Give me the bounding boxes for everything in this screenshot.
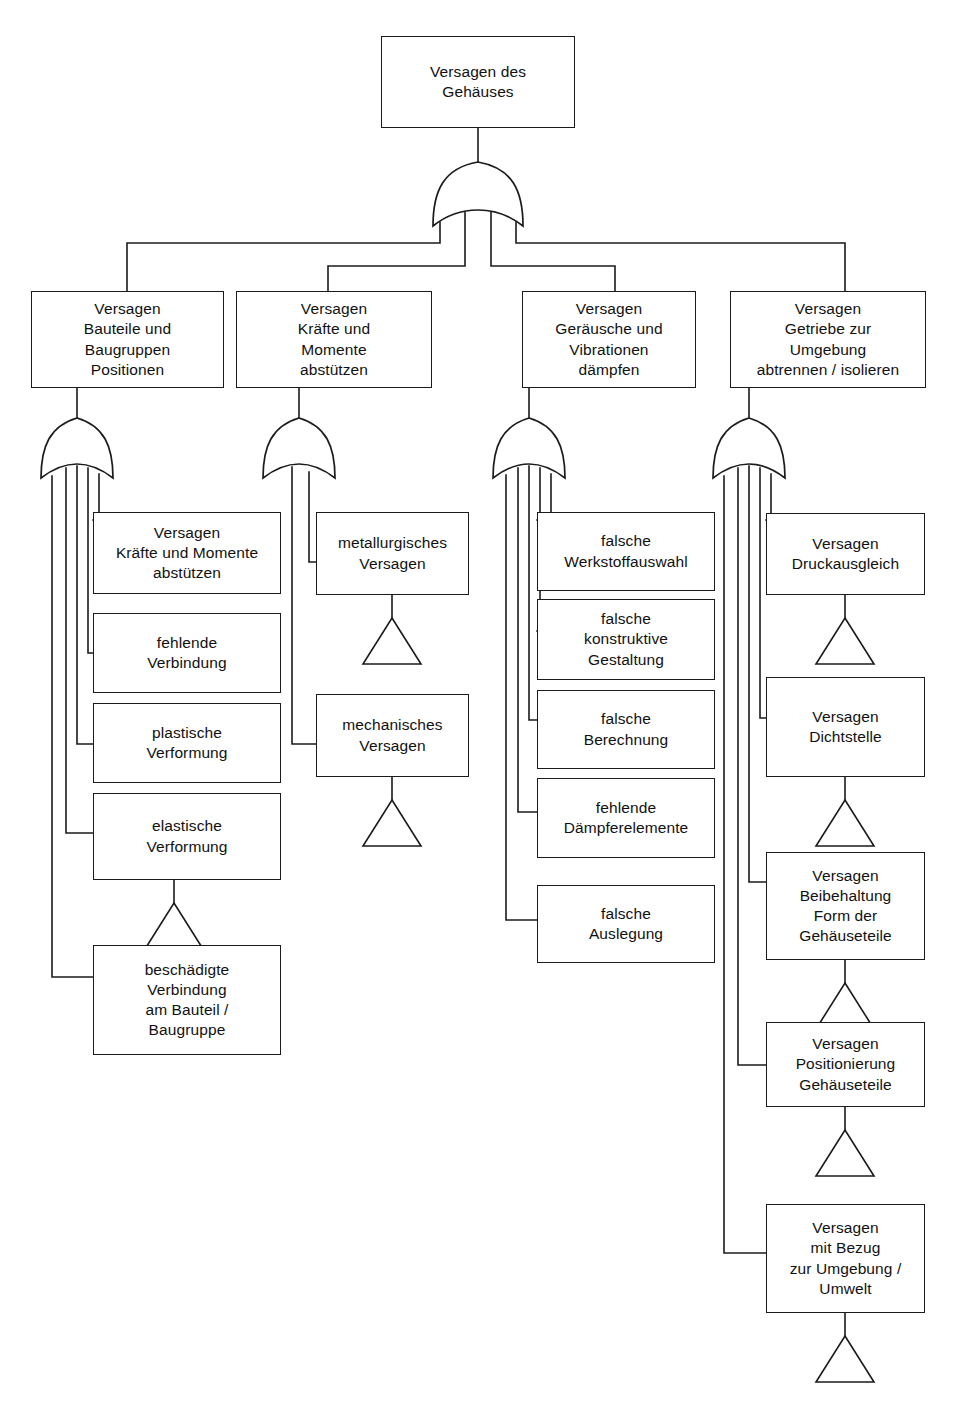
fault-tree-diagram: Versagen des Gehäuses Versagen Bauteile … — [0, 0, 958, 1420]
col4-item-dichtstelle[interactable]: Versagen Dichtstelle — [766, 677, 925, 777]
wire-c4-leg-4 — [738, 468, 766, 1065]
wire-c3-leg-4 — [518, 468, 537, 812]
top-event-node[interactable]: Versagen des Gehäuses — [381, 36, 575, 128]
transfer-triangle-c4-5 — [816, 1336, 874, 1382]
col1-item-beschaedigte-verbindung[interactable]: beschädigte Verbindung am Bauteil / Baug… — [93, 945, 281, 1055]
col4-item-beibehaltung-form[interactable]: Versagen Beibehaltung Form der Gehäusete… — [766, 852, 925, 960]
wire-c2-leg-2 — [292, 467, 316, 744]
wire-c1-leg-4 — [66, 468, 93, 833]
transfer-triangle-c2-2 — [363, 800, 421, 846]
or-gate-c2 — [263, 418, 335, 478]
or-gate-c1 — [41, 418, 113, 478]
level2-node-geraeusche[interactable]: Versagen Geräusche und Vibrationen dämpf… — [522, 291, 696, 388]
or-gate-c4 — [713, 418, 785, 478]
col3-item-auslegung[interactable]: falsche Auslegung — [537, 885, 715, 963]
col3-item-werkstoffauswahl[interactable]: falsche Werkstoffauswahl — [537, 512, 715, 591]
wire-top-leg-3 — [491, 212, 615, 291]
level2-node-bauteile[interactable]: Versagen Bauteile und Baugruppen Positio… — [31, 291, 224, 388]
wire-c1-leg-3 — [77, 466, 93, 744]
col4-item-positionierung[interactable]: Versagen Positionierung Gehäuseteile — [766, 1022, 925, 1107]
wire-c4-leg-5 — [724, 476, 766, 1253]
transfer-triangle-c4-4 — [816, 1130, 874, 1176]
col3-item-berechnung[interactable]: falsche Berechnung — [537, 690, 715, 769]
level2-node-kraefte[interactable]: Versagen Kräfte und Momente abstützen — [236, 291, 432, 388]
transfer-triangle-c4-2 — [816, 800, 874, 846]
col3-item-daempferelemente[interactable]: fehlende Dämpferelemente — [537, 778, 715, 858]
col3-item-konstruktive-gestaltung[interactable]: falsche konstruktive Gestaltung — [537, 599, 715, 680]
wire-c2-leg-1 — [309, 472, 316, 562]
col1-item-plastische-verformung[interactable]: plastische Verformung — [93, 703, 281, 783]
wire-c3-leg-5 — [506, 475, 537, 920]
transfer-triangle-c2-1 — [363, 618, 421, 664]
wire-c3-leg-3 — [529, 466, 537, 720]
or-gate-c3 — [493, 418, 565, 478]
col2-item-metallurgisches-versagen[interactable]: metallurgisches Versagen — [316, 512, 469, 595]
wire-top-leg-1 — [127, 222, 440, 291]
transfer-triangle-c1 — [145, 903, 203, 949]
col1-item-elastische-verformung[interactable]: elastische Verformung — [93, 793, 281, 880]
level2-node-getriebe[interactable]: Versagen Getriebe zur Umgebung abtrennen… — [730, 291, 926, 388]
wire-c4-leg-3 — [749, 466, 766, 882]
col2-item-mechanisches-versagen[interactable]: mechanisches Versagen — [316, 694, 469, 777]
col4-item-druckausgleich[interactable]: Versagen Druckausgleich — [766, 513, 925, 595]
wire-c1-leg-5 — [52, 476, 93, 977]
wire-top-leg-4 — [516, 222, 845, 291]
transfer-triangle-c4-1 — [816, 618, 874, 664]
or-gate-top — [433, 162, 523, 226]
col1-item-kraefte-momente[interactable]: Versagen Kräfte und Momente abstützen — [93, 512, 281, 594]
wire-top-leg-2 — [328, 212, 465, 291]
col1-item-fehlende-verbindung[interactable]: fehlende Verbindung — [93, 613, 281, 693]
col4-item-bezug-umgebung[interactable]: Versagen mit Bezug zur Umgebung / Umwelt — [766, 1204, 925, 1313]
